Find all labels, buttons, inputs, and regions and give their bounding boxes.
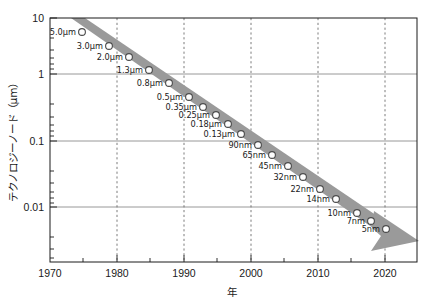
data-point	[255, 142, 262, 149]
point-label: 22nm	[290, 184, 314, 194]
data-point	[238, 131, 245, 138]
data-point	[300, 174, 307, 181]
xtick-label-1990: 1990	[172, 267, 196, 279]
y-axis-title: テクノロジーノード（μm）	[7, 78, 19, 203]
point-label: 32nm	[273, 172, 297, 182]
ytick-label-1: 1	[38, 68, 44, 80]
data-point	[225, 121, 232, 128]
chart-canvas: 10 1 0.1 0.01 1970 1980 1990 2000 2010 2…	[0, 0, 428, 301]
ytick-label-0.01: 0.01	[24, 201, 45, 213]
point-label: 5.0μm	[50, 27, 76, 37]
x-axis-title: 年	[227, 286, 237, 298]
ytick-label-0.1: 0.1	[29, 135, 44, 147]
data-point	[213, 112, 220, 119]
point-label: 0.8μm	[137, 78, 163, 88]
data-point	[317, 186, 324, 193]
data-point	[186, 94, 193, 101]
data-point	[166, 80, 173, 87]
trend-arrow	[71, 18, 419, 251]
point-label: 3.0μm	[77, 41, 103, 51]
data-point	[285, 163, 292, 170]
point-label: 0.13μm	[204, 129, 235, 139]
y-tickmarks	[50, 18, 57, 258]
point-label: 0.18μm	[191, 119, 222, 129]
point-label: 90nm	[228, 140, 252, 150]
technology-node-scaling-chart: 10 1 0.1 0.01 1970 1980 1990 2000 2010 2…	[0, 0, 428, 301]
xtick-label-1980: 1980	[105, 267, 129, 279]
data-point	[333, 196, 340, 203]
point-label: 14nm	[306, 194, 330, 204]
data-point	[79, 29, 86, 36]
xtick-label-2000: 2000	[239, 267, 263, 279]
xtick-label-2010: 2010	[306, 267, 330, 279]
data-point	[383, 226, 390, 233]
point-label: 65nm	[242, 150, 266, 160]
data-point	[146, 67, 153, 74]
point-label: 0.5μm	[157, 92, 183, 102]
x-tickmarks	[83, 255, 385, 262]
point-label: 5nm	[362, 224, 380, 234]
data-point	[126, 54, 133, 61]
data-point	[106, 43, 113, 50]
data-point	[269, 152, 276, 159]
point-label: 45nm	[258, 161, 282, 171]
data-point-labels: 5.0μm 3.0μm 2.0μm 1.3μm 0.8μm 0.5μm 0.35…	[50, 27, 380, 234]
xtick-label-1970: 1970	[38, 267, 62, 279]
ytick-label-10: 10	[32, 12, 44, 24]
point-label: 1.3μm	[117, 65, 143, 75]
point-label: 2.0μm	[97, 52, 123, 62]
xtick-label-2020: 2020	[373, 267, 397, 279]
